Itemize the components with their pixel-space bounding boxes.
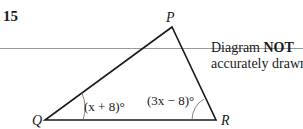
- note-prefix: Diagram: [211, 40, 263, 55]
- note-bold: NOT: [263, 40, 293, 55]
- angle-label-r: (3x − 8)°: [147, 93, 194, 108]
- diagram-note: Diagram NOT accurately drawn: [211, 40, 303, 72]
- vertex-label-p: P: [165, 10, 175, 25]
- angle-label-q: (x + 8)°: [84, 99, 125, 114]
- note-line2: accurately drawn: [211, 56, 303, 71]
- vertex-label-r: R: [220, 113, 230, 128]
- vertex-label-q: Q: [32, 113, 42, 128]
